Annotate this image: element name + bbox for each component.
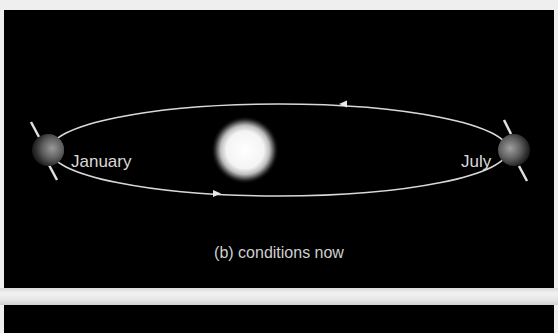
orbit-arrow-bottom-icon [213,190,221,197]
diagram-panel-next [4,305,554,333]
panel-divider [0,288,558,305]
label-january: January [71,152,131,172]
earth-july-icon [498,120,530,181]
sun-icon [211,116,279,184]
panel-caption: (b) conditions now [4,244,554,262]
diagram-panel-b: January July (b) conditions now [4,10,554,288]
label-july: July [461,152,491,172]
earth-january-icon [31,122,64,180]
